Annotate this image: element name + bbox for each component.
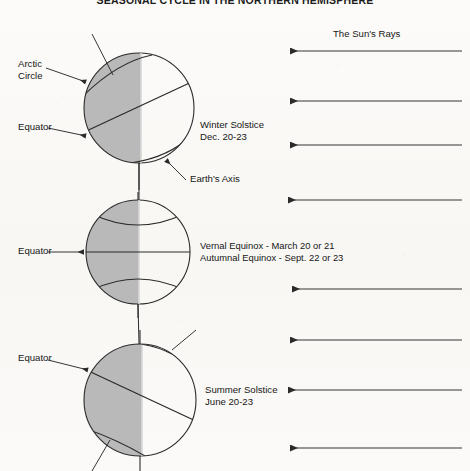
label-equator-1: Equator [18,121,52,133]
night-shade-3 [80,340,142,462]
leader-earths-axis [166,160,186,180]
arctic-circle-3 [141,344,198,376]
globe-equinox [80,192,196,318]
label-winter-date: Dec. 20-23 [200,131,247,143]
night-shade-2 [82,196,139,310]
label-equator-2: Equator [18,245,52,257]
leader-arctic-circle-1 [46,68,86,82]
label-autumnal-equinox: Autumnal Equinox - Sept. 22 or 23 [200,252,343,264]
leader-equator-3 [48,360,88,370]
leader-antarctic-3 [92,440,110,471]
globe-winter-solstice [78,50,200,190]
label-winter-solstice: Winter Solstice [200,119,264,131]
globe-summer-solstice [78,330,202,471]
label-vernal-equinox: Vernal Equinox - March 20 or 21 [200,240,334,252]
label-arctic-circle-line2: Circle [18,70,43,82]
leader-equator-1 [48,128,86,136]
seasonal-cycle-diagram: SEASONAL CYCLE IN THE NORTHERN HEMISPHER… [0,0,470,471]
label-summer-solstice: Summer Solstice [205,384,278,396]
label-equator-3: Equator [18,352,52,364]
leader-arctic-top-3 [172,330,196,350]
label-summer-date: June 20-23 [205,396,253,408]
label-arctic-circle-line1: Arctic [18,58,42,70]
label-earths-axis: Earth's Axis [190,173,240,185]
label-suns-rays: The Sun's Rays [333,28,400,40]
